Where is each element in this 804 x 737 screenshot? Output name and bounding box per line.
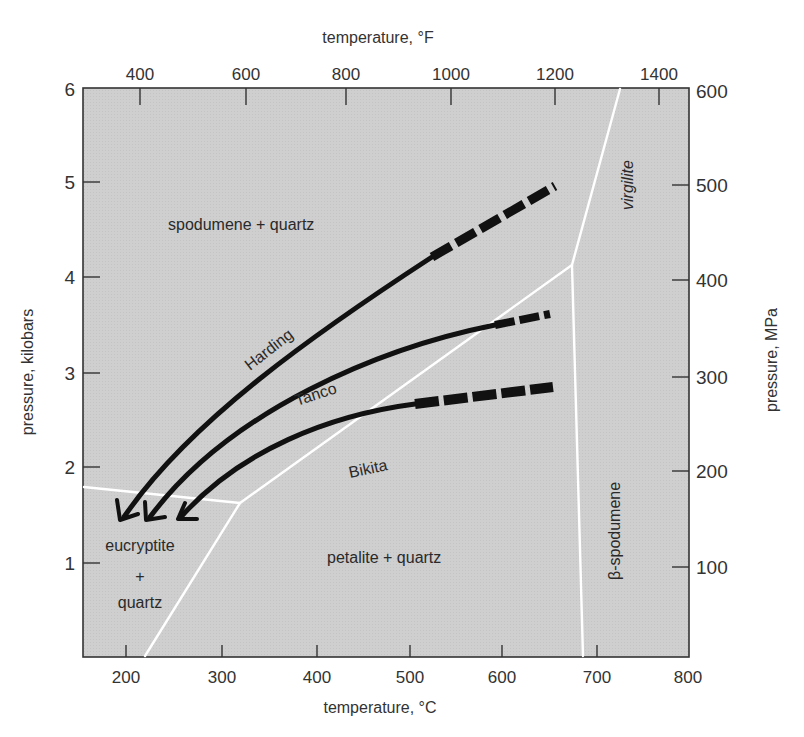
svg-text:100: 100 [696, 557, 728, 578]
svg-text:800: 800 [332, 65, 360, 84]
region-spodumene-quartz: spodumene + quartz [168, 216, 314, 233]
svg-text:3: 3 [64, 363, 75, 384]
region-beta-spodumene: β-spodumene [606, 482, 623, 580]
y-axis-right-title: pressure, MPa [763, 308, 780, 412]
x-axis-top-title: temperature, °F [322, 29, 434, 46]
svg-text:1: 1 [64, 553, 75, 574]
svg-text:400: 400 [303, 668, 331, 687]
svg-text:600: 600 [488, 668, 516, 687]
svg-text:300: 300 [208, 668, 236, 687]
svg-text:200: 200 [696, 461, 728, 482]
region-eucryptite-quartz: quartz [118, 594, 162, 611]
region-eucryptite-plus: + [135, 568, 144, 585]
svg-text:5: 5 [64, 172, 75, 193]
x-axis-top-labels: 400 600 800 1000 1200 1400 [126, 65, 678, 84]
region-virgilite: virgilite [619, 160, 636, 210]
svg-text:600: 600 [232, 65, 260, 84]
svg-text:700: 700 [583, 668, 611, 687]
svg-text:2: 2 [64, 457, 75, 478]
svg-text:1400: 1400 [640, 65, 678, 84]
y-axis-right-labels: 100 200 300 400 500 600 [696, 81, 728, 578]
region-eucryptite: eucryptite [105, 537, 174, 554]
svg-text:4: 4 [64, 267, 75, 288]
svg-text:500: 500 [696, 175, 728, 196]
svg-text:800: 800 [674, 668, 702, 687]
svg-text:400: 400 [696, 270, 728, 291]
y-axis-left-title: pressure, kilobars [19, 309, 36, 435]
svg-text:1000: 1000 [432, 65, 470, 84]
svg-text:200: 200 [112, 668, 140, 687]
x-axis-bottom-labels: 200 300 400 500 600 700 800 [112, 668, 702, 687]
svg-text:1200: 1200 [536, 65, 574, 84]
svg-text:6: 6 [64, 79, 75, 100]
region-petalite-quartz: petalite + quartz [327, 549, 441, 566]
y-axis-left-labels: 1 2 3 4 5 6 [64, 79, 75, 574]
phase-diagram: Harding Tanco Bikita spodumene + quartz … [0, 0, 804, 737]
svg-text:600: 600 [696, 81, 728, 102]
svg-text:300: 300 [696, 367, 728, 388]
svg-text:500: 500 [396, 668, 424, 687]
svg-text:400: 400 [126, 65, 154, 84]
x-axis-bottom-title: temperature, °C [323, 699, 436, 716]
